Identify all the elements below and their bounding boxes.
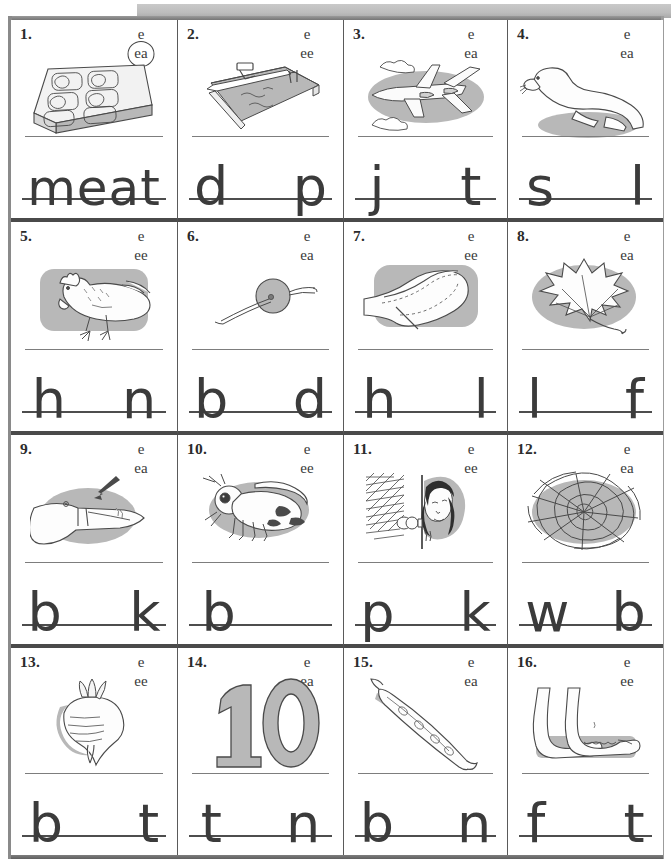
given-letter: b xyxy=(611,590,645,635)
beet-illustration xyxy=(11,670,177,780)
given-letter: d xyxy=(293,377,327,422)
given-letter: f xyxy=(526,801,545,846)
answer-letters[interactable]: j t xyxy=(355,136,496,200)
worksheet-item-2[interactable]: 2.eee d p xyxy=(178,20,344,222)
handwriting-lines: l f xyxy=(508,349,663,427)
answer-letters[interactable]: b n xyxy=(355,773,496,837)
answer-letters[interactable]: d p xyxy=(189,136,332,200)
number-ten-illustration xyxy=(178,670,343,780)
given-letter: p xyxy=(293,164,327,209)
handwriting-lines: d p xyxy=(178,136,343,214)
spider-web-illustration xyxy=(508,457,663,567)
worksheet-item-1[interactable]: 1.eea meat xyxy=(11,20,178,222)
item-number: 12. xyxy=(517,440,537,458)
answer-letters[interactable]: l f xyxy=(519,349,652,413)
answer-letters[interactable]: f t xyxy=(519,773,652,837)
handwriting-lines: b t xyxy=(11,773,177,851)
worksheet-item-3[interactable]: 3.eea j t xyxy=(344,20,508,222)
answer-letters[interactable]: b d xyxy=(189,349,332,413)
given-letter: t xyxy=(138,801,159,846)
answer-letters[interactable]: t n xyxy=(189,773,332,837)
item-number: 16. xyxy=(517,653,537,671)
item-number: 7. xyxy=(353,227,365,245)
answer-letters[interactable]: w b xyxy=(519,562,652,626)
handwriting-lines: b xyxy=(178,562,343,640)
handwriting-lines: b k xyxy=(11,562,177,640)
given-letter: l xyxy=(630,164,645,209)
bead-on-string-illustration xyxy=(178,244,343,354)
given-letter: b xyxy=(201,590,235,635)
worksheet-item-11[interactable]: 11.eee xyxy=(344,435,508,648)
given-letter: t xyxy=(460,164,481,209)
answer-letters[interactable]: b xyxy=(189,562,332,626)
worksheet-item-13[interactable]: 13.eee b t xyxy=(11,648,178,855)
worksheet-item-6[interactable]: 6.eea b d xyxy=(178,222,344,435)
given-letter: n xyxy=(286,801,320,846)
item-number: 15. xyxy=(353,653,373,671)
worksheet-item-12[interactable]: 12.eea w b xyxy=(508,435,663,648)
given-letter: d xyxy=(194,164,228,209)
worksheet-item-7[interactable]: 7.eee h l xyxy=(344,222,508,435)
given-letter: f xyxy=(625,377,644,422)
given-letter: b xyxy=(194,377,228,422)
answer-letters[interactable]: s l xyxy=(519,136,652,200)
item-number: 4. xyxy=(517,25,529,43)
worksheet-grid: 1.eea meat2.eee xyxy=(11,20,663,855)
given-letter: k xyxy=(460,590,491,635)
handwriting-lines: meat xyxy=(11,136,177,214)
given-letter: h xyxy=(362,377,396,422)
item-number: 3. xyxy=(353,25,365,43)
item-number: 10. xyxy=(187,440,207,458)
maple-leaf-illustration xyxy=(508,244,663,354)
given-letter: b xyxy=(28,590,62,635)
given-letter: b xyxy=(360,801,394,846)
given-letter: k xyxy=(129,590,160,635)
item-number: 1. xyxy=(20,25,32,43)
given-letter: s xyxy=(526,164,554,209)
worksheet-item-9[interactable]: 9.eea b k xyxy=(11,435,178,648)
handwriting-lines: h n xyxy=(11,349,177,427)
bean-pod-illustration xyxy=(344,670,507,780)
item-number: 2. xyxy=(187,25,199,43)
item-number: 13. xyxy=(20,653,40,671)
handwriting-lines: b d xyxy=(178,349,343,427)
answer-letters[interactable]: p k xyxy=(355,562,496,626)
answer-letters[interactable]: h l xyxy=(355,349,496,413)
handwriting-lines: f t xyxy=(508,773,663,851)
worksheet-item-5[interactable]: 5.eee h n xyxy=(11,222,178,435)
worksheet-item-15[interactable]: 15.eea b n xyxy=(344,648,508,855)
item-number: 9. xyxy=(20,440,32,458)
handwriting-lines: b n xyxy=(344,773,507,851)
handwriting-lines: s l xyxy=(508,136,663,214)
given-letter: p xyxy=(360,590,394,635)
answer-letters[interactable]: b t xyxy=(22,773,166,837)
answer-letters[interactable]: h n xyxy=(22,349,166,413)
hen-illustration xyxy=(11,244,177,354)
item-number: 11. xyxy=(353,440,372,458)
given-letter: h xyxy=(32,377,66,422)
item-number: 5. xyxy=(20,227,32,245)
feet-illustration xyxy=(508,670,663,780)
given-letter: l xyxy=(474,377,489,422)
given-letter: n xyxy=(122,377,156,422)
given-letter: l xyxy=(527,377,542,422)
worksheet-item-10[interactable]: 10.eee b xyxy=(178,435,344,648)
girl-peeking-around-door-illustration xyxy=(344,457,507,567)
given-letter: w xyxy=(525,590,569,635)
bee-illustration xyxy=(178,457,343,567)
item-number: 6. xyxy=(187,227,199,245)
worksheet-item-8[interactable]: 8.eea l f xyxy=(508,222,663,435)
worksheet-item-4[interactable]: 4.eea s l xyxy=(508,20,663,222)
handwriting-lines: w b xyxy=(508,562,663,640)
worksheet-item-14[interactable]: 14.eea t n xyxy=(178,648,344,855)
given-letter: j xyxy=(370,164,385,209)
handwriting-lines: p k xyxy=(344,562,507,640)
handwriting-lines: t n xyxy=(178,773,343,851)
handwriting-lines: j t xyxy=(344,136,507,214)
answer-letters[interactable]: b k xyxy=(22,562,166,626)
given-letter: t xyxy=(201,801,222,846)
worksheet-item-16[interactable]: 16.eee f t xyxy=(508,648,663,855)
answer-word[interactable]: meat xyxy=(22,136,166,209)
handwriting-lines: h l xyxy=(344,349,507,427)
given-letter: b xyxy=(29,801,63,846)
